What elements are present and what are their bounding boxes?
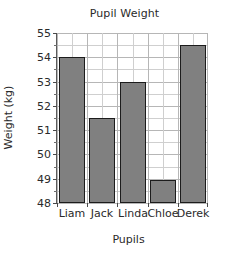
y-tick-label: 54 xyxy=(37,52,51,63)
y-tick-label: 51 xyxy=(37,125,51,136)
y-tick-label: 53 xyxy=(37,77,51,88)
axis-ticks: 4849505152535455LiamJackLindaChloeDerek xyxy=(57,33,208,203)
gridline-horizontal-major xyxy=(57,203,208,204)
x-tick-label-chloe: Chloe xyxy=(147,208,178,219)
x-tick-label-derek: Derek xyxy=(177,208,210,219)
x-tick-label-jack: Jack xyxy=(91,208,113,219)
y-axis-title: Weight (kg) xyxy=(0,30,18,204)
y-axis-title-text: Weight (kg) xyxy=(3,85,16,149)
x-tick-label-linda: Linda xyxy=(118,208,148,219)
y-tick-minor xyxy=(54,167,57,168)
chart-title: Pupil Weight xyxy=(0,7,249,20)
plot-area: 4849505152535455LiamJackLindaChloeDerek xyxy=(56,33,208,204)
y-tick-minor xyxy=(54,94,57,95)
x-axis-title: Pupils xyxy=(50,233,207,246)
x-tick xyxy=(87,203,88,207)
y-tick-major xyxy=(53,33,57,34)
y-tick-major xyxy=(53,57,57,58)
y-tick-minor xyxy=(54,45,57,46)
y-tick-label: 49 xyxy=(37,174,51,185)
y-tick-label: 52 xyxy=(37,101,51,112)
bar-chart: Pupil Weight Weight (kg) Pupils 48495051… xyxy=(0,0,249,253)
y-tick-label: 55 xyxy=(37,28,51,39)
x-tick-label-liam: Liam xyxy=(59,208,86,219)
y-tick-label: 50 xyxy=(37,149,51,160)
y-tick-major xyxy=(53,82,57,83)
y-tick-minor xyxy=(54,191,57,192)
y-tick-major xyxy=(53,106,57,107)
y-tick-major xyxy=(53,154,57,155)
y-tick-major xyxy=(53,179,57,180)
y-tick-label: 48 xyxy=(37,198,51,209)
y-tick-minor xyxy=(54,142,57,143)
y-tick-minor xyxy=(54,118,57,119)
y-tick-minor xyxy=(54,69,57,70)
y-tick-major xyxy=(53,130,57,131)
